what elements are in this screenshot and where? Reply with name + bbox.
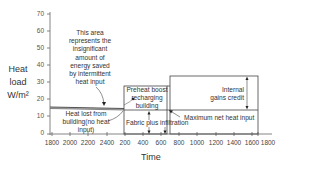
note-fabric-infiltration: Fabric plus infiltration xyxy=(126,119,186,127)
note-preheat-boost: Preheat boost recharging building xyxy=(126,86,168,111)
x-tick-1800b: 1800 xyxy=(256,139,278,146)
note-internal-gains: Internal gains credit xyxy=(196,86,244,102)
note-energy-saved-area: This area represents the insignificant a… xyxy=(58,29,122,86)
note-heat-lost: Heat lost from building(no heat input) xyxy=(58,110,114,135)
note-max-net-heat: Maximum net heat input xyxy=(184,114,264,122)
x-axis-label: Time xyxy=(141,152,161,162)
